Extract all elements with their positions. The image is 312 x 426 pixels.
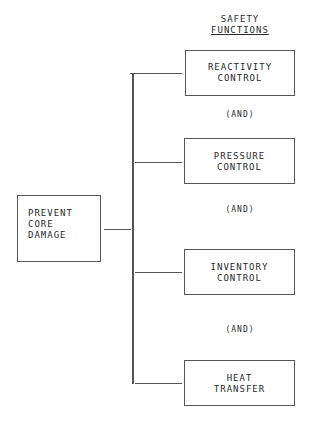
branch-inventory [135,272,182,273]
goal-box-prevent-core-damage: PREVENT CORE DAMAGE [17,195,101,262]
function-box-reactivity-control: REACTIVITY CONTROL [185,50,295,96]
header-line-1: SAFETY [185,14,295,25]
goal-connector [104,229,131,230]
function-box-inventory-control: INVENTORY CONTROL [184,249,295,295]
and-connector-3: (AND) [185,325,295,334]
and-connector-2: (AND) [185,205,295,214]
trunk-line [132,73,134,384]
branch-pressure [135,162,182,163]
header-line-2: FUNCTIONS [185,25,295,36]
function-box-heat-transfer: HEAT TRANSFER [184,360,295,406]
branch-reactivity [130,73,182,74]
branch-heat [135,383,182,384]
goal-label: PREVENT CORE DAMAGE [28,208,73,241]
and-connector-1: (AND) [185,110,295,119]
function-box-pressure-control: PRESSURE CONTROL [184,138,295,184]
safety-functions-header: SAFETY FUNCTIONS [185,14,295,36]
